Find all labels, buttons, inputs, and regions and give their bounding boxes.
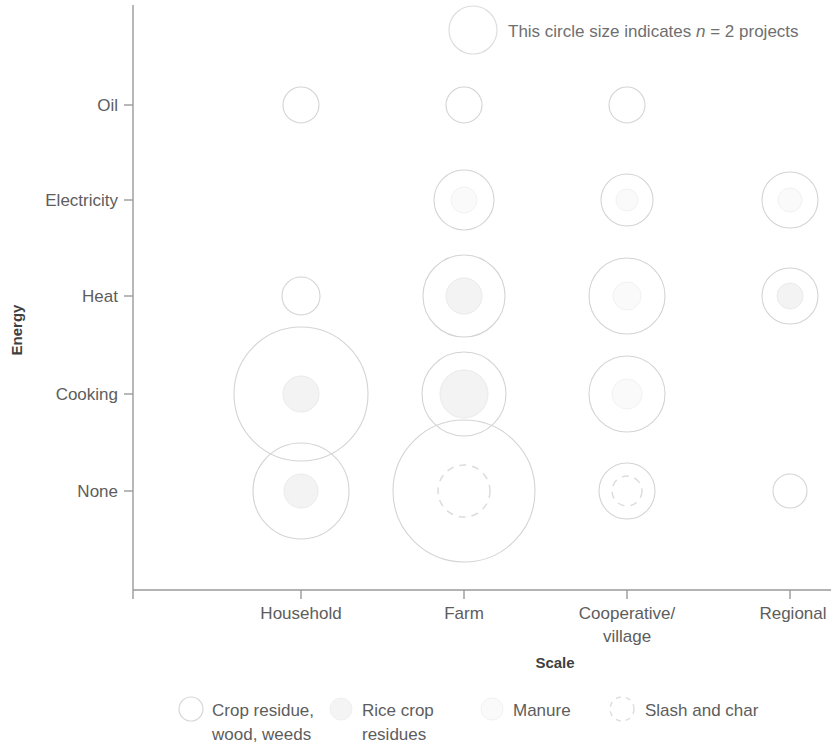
legend-item-crop-residue[interactable]: Crop residue, wood, weeds [179, 697, 314, 744]
bubble-cooperative-none-slash [612, 476, 642, 506]
legend-marker-crop-residue-icon [179, 697, 203, 721]
legend: Crop residue, wood, weeds Rice crop resi… [179, 697, 759, 744]
bubble-regional-electricity-manure [778, 188, 802, 212]
y-tick-label-oil: Oil [97, 96, 118, 115]
bubble-farm-heat-rice [446, 278, 482, 314]
bubble-farm-electricity-manure [451, 187, 477, 213]
x-axis [133, 590, 831, 599]
bubble-cooperative-cooking-manure [612, 379, 642, 409]
bubble-group-electricity [434, 170, 818, 230]
legend-label-rice-crop-line2: residues [362, 725, 426, 744]
annot-italic-n: n [696, 22, 705, 41]
y-axis [124, 5, 133, 590]
x-tick-label-household: Household [260, 604, 341, 623]
y-axis-title: Energy [8, 304, 25, 356]
y-tick-label-none: None [77, 482, 118, 501]
y-tick-label-electricity: Electricity [45, 191, 118, 210]
legend-label-rice-crop: Rice crop [362, 701, 434, 720]
bubble-chart-svg: Oil Electricity Heat Cooking None Energy… [0, 0, 831, 744]
size-reference-annotation: This circle size indicates n = 2 project… [449, 6, 799, 54]
legend-label-crop-residue: Crop residue, [212, 701, 314, 720]
x-tick-label-farm: Farm [444, 604, 484, 623]
bubble-household-cooking-rice [283, 376, 319, 412]
legend-marker-rice-crop-icon [330, 698, 352, 720]
bubble-regional-none [773, 474, 807, 508]
annot-prefix: This circle size indicates [508, 22, 696, 41]
bubble-cooperative-none [599, 463, 655, 519]
x-axis-title: Scale [535, 654, 574, 671]
legend-label-manure: Manure [513, 701, 571, 720]
bubble-cooperative-oil [609, 87, 645, 123]
chart-figure: Oil Electricity Heat Cooking None Energy… [0, 0, 831, 744]
legend-marker-manure-icon [481, 698, 503, 720]
bubble-farm-oil [446, 87, 482, 123]
bubble-cooperative-electricity-manure [616, 189, 638, 211]
bubble-regional-heat-rice [777, 283, 803, 309]
bubble-household-oil [283, 87, 319, 123]
legend-item-rice-crop[interactable]: Rice crop residues [330, 698, 434, 744]
x-tick-label-cooperative: Cooperative/ [579, 604, 676, 623]
legend-item-slash-and-char[interactable]: Slash and char [610, 697, 759, 721]
size-reference-circle [449, 6, 497, 54]
annot-suffix: = 2 projects [705, 22, 798, 41]
bubble-household-heat [282, 277, 320, 315]
bubble-household-none-rice [284, 474, 318, 508]
x-tick-label-regional: Regional [759, 604, 826, 623]
legend-label-slash-and-char: Slash and char [645, 701, 759, 720]
bubble-group-oil [283, 87, 645, 123]
bubble-group-none [253, 420, 807, 562]
bubble-group-heat [282, 255, 818, 337]
x-tick-label-cooperative-line2: village [603, 627, 651, 646]
bubble-farm-cooking-rice [440, 370, 488, 418]
legend-marker-slash-and-char-icon [610, 697, 634, 721]
y-tick-label-cooking: Cooking [56, 385, 118, 404]
bubble-farm-none [393, 420, 535, 562]
bubble-farm-none-slash [438, 465, 490, 517]
size-reference-label: This circle size indicates n = 2 project… [508, 22, 799, 41]
legend-label-crop-residue-line2: wood, weeds [211, 725, 311, 744]
bubble-group-cooking [234, 327, 665, 461]
y-tick-label-heat: Heat [82, 287, 118, 306]
legend-item-manure[interactable]: Manure [481, 698, 571, 720]
bubble-cooperative-heat-manure [613, 282, 641, 310]
